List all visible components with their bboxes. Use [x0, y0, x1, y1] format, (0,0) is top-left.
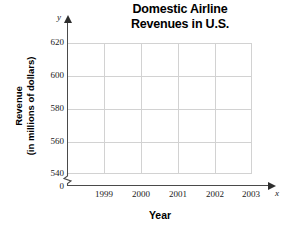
- gridline-horizontal: [68, 43, 252, 44]
- x-tick-label: 1999: [84, 190, 124, 199]
- gridline-horizontal: [68, 109, 252, 110]
- gridline-vertical: [215, 43, 216, 174]
- x-tick-label: 2000: [121, 190, 161, 199]
- gridline-horizontal: [68, 173, 252, 174]
- gridline-horizontal: [68, 76, 252, 77]
- x-tick-label: 2003: [231, 190, 271, 199]
- y-axis-title-line-2: (in millions of dollars): [25, 31, 37, 181]
- origin-label: 0: [38, 182, 64, 191]
- y-axis-arrow-icon: [64, 15, 72, 23]
- gridline-vertical: [251, 43, 252, 174]
- gridline-horizontal: [68, 142, 252, 143]
- x-tick-label: 2001: [158, 190, 198, 199]
- x-axis-line: [67, 185, 269, 186]
- chart-title-line-1: Domestic Airline: [80, 2, 280, 17]
- x-axis-title: Year: [100, 209, 220, 221]
- gridline-vertical: [141, 43, 142, 174]
- y-axis-line: [67, 22, 68, 174]
- chart-title-line-2: Revenues in U.S.: [80, 17, 280, 32]
- chart-title: Domestic Airline Revenues in U.S.: [80, 2, 280, 32]
- x-tick-label: 2002: [195, 190, 235, 199]
- y-axis-title: Revenue (in millions of dollars): [13, 31, 43, 181]
- y-axis-variable-label: y: [57, 12, 61, 22]
- gridline-vertical: [104, 43, 105, 174]
- plot-area: [68, 43, 252, 174]
- x-axis-variable-label: x: [275, 188, 279, 198]
- chart-figure: Domestic Airline Revenues in U.S. y x 62…: [0, 0, 307, 233]
- y-axis-title-line-1: Revenue: [13, 31, 25, 181]
- gridline-vertical: [178, 43, 179, 174]
